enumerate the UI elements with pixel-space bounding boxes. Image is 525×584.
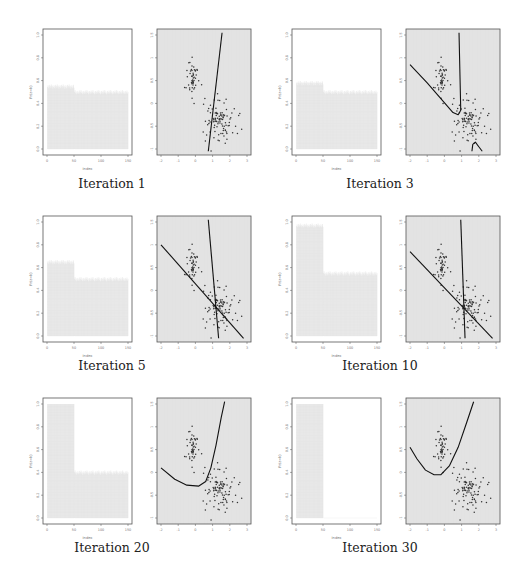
y-tick-label: 0.5	[399, 265, 403, 270]
y-tick-label: 0.4	[36, 288, 40, 293]
x-tick-label: 1	[461, 346, 463, 350]
probability-bars	[48, 260, 128, 336]
x-tick-label: 50	[321, 346, 325, 350]
iteration-caption: Iteration 1	[12, 176, 212, 191]
x-tick-label: 1	[461, 159, 463, 163]
x-tick-label: -1	[177, 159, 180, 163]
x-tick-label: 0	[194, 346, 196, 350]
y-tick-label: 1	[150, 57, 154, 59]
y-tick-label: 0.6	[285, 447, 289, 452]
probability-bars	[297, 224, 377, 336]
y-tick-label: 1.0	[285, 219, 289, 224]
y-tick-label: 0.2	[285, 310, 289, 315]
y-tick-label: 0.4	[285, 101, 289, 106]
y-axis-label: Pr(z=k)	[278, 272, 282, 286]
x-tick-label: 150	[125, 346, 131, 350]
iteration-caption: Iteration 5	[12, 358, 212, 373]
probability-plot: 0.00.20.40.60.81.0050100150IndexPr(z=k)	[276, 25, 389, 175]
y-tick-label: 0.0	[285, 333, 289, 338]
x-tick-label: 2	[229, 346, 231, 350]
x-tick-label: 50	[72, 346, 76, 350]
x-tick-label: -2	[408, 346, 411, 350]
y-tick-label: 1	[399, 244, 403, 246]
y-tick-label: 1.5	[150, 401, 154, 406]
x-tick-label: 2	[478, 159, 480, 163]
y-tick-label: 0	[399, 102, 403, 104]
x-tick-label: 100	[347, 528, 353, 532]
y-tick-label: -0.5	[150, 310, 154, 317]
probability-plot: 0.00.20.40.60.81.0050100150IndexPr(z=k)	[27, 394, 140, 544]
x-axis-label: Index	[83, 167, 94, 171]
y-tick-label: -1	[399, 147, 403, 150]
y-tick-label: 0	[150, 289, 154, 291]
y-tick-label: 1	[150, 426, 154, 428]
x-tick-label: 3	[246, 159, 248, 163]
x-tick-label: -2	[408, 159, 411, 163]
x-tick-label: 50	[321, 528, 325, 532]
y-tick-label: 0.4	[285, 470, 289, 475]
iteration-caption: Iteration 20	[12, 540, 212, 555]
x-tick-label: 1	[212, 159, 214, 163]
x-tick-label: 3	[246, 528, 248, 532]
y-tick-label: 0.8	[36, 424, 40, 429]
y-tick-label: 1.5	[399, 32, 403, 37]
x-tick-label: 0	[46, 528, 48, 532]
y-tick-label: 0.0	[285, 146, 289, 151]
probability-bars	[297, 404, 377, 518]
x-tick-label: 0	[46, 159, 48, 163]
probability-plot: 0.00.20.40.60.81.0050100150IndexPr(z=k)	[27, 212, 140, 362]
y-tick-label: 1.0	[285, 32, 289, 37]
x-tick-label: 2	[478, 528, 480, 532]
y-tick-label: 0.8	[285, 424, 289, 429]
y-tick-label: -1	[399, 334, 403, 337]
y-tick-label: 0.5	[399, 78, 403, 83]
probability-plot: 0.00.20.40.60.81.0050100150IndexPr(z=k)	[276, 212, 389, 362]
y-tick-label: 0.5	[150, 78, 154, 83]
y-tick-label: 1	[399, 426, 403, 428]
scatter-plot: -1-0.500.511.5-2-10123	[147, 212, 261, 358]
y-tick-label: 1.5	[150, 32, 154, 37]
x-tick-label: 0	[295, 346, 297, 350]
y-tick-label: -1	[150, 334, 154, 337]
x-tick-label: -2	[159, 159, 162, 163]
x-tick-label: 2	[478, 346, 480, 350]
y-tick-label: 0.8	[36, 242, 40, 247]
x-tick-label: -1	[177, 346, 180, 350]
y-axis-label: Pr(z=k)	[29, 272, 33, 286]
y-tick-label: -0.5	[399, 492, 403, 499]
x-tick-label: -1	[426, 528, 429, 532]
y-tick-label: 0.0	[36, 146, 40, 151]
y-tick-label: 0	[150, 102, 154, 104]
x-tick-label: -1	[177, 528, 180, 532]
y-tick-label: 0.8	[285, 55, 289, 60]
probability-plot: 0.00.20.40.60.81.0050100150IndexPr(z=k)	[27, 25, 140, 175]
probability-bars	[48, 404, 128, 518]
x-tick-label: 0	[194, 159, 196, 163]
x-tick-label: 0	[295, 528, 297, 532]
y-axis-label: Pr(z=k)	[29, 85, 33, 99]
x-tick-label: 3	[495, 346, 497, 350]
y-tick-label: 0.5	[150, 265, 154, 270]
x-tick-label: 2	[229, 528, 231, 532]
y-tick-label: -1	[150, 516, 154, 519]
y-tick-label: 0.4	[285, 288, 289, 293]
x-tick-label: 150	[125, 159, 131, 163]
y-tick-label: 0.6	[285, 78, 289, 83]
y-tick-label: 1.5	[399, 401, 403, 406]
y-tick-label: 1.5	[399, 219, 403, 224]
probability-plot: 0.00.20.40.60.81.0050100150IndexPr(z=k)	[276, 394, 389, 544]
y-tick-label: 1.0	[36, 219, 40, 224]
y-tick-label: 1.0	[36, 32, 40, 37]
y-tick-label: -0.5	[399, 310, 403, 317]
x-tick-label: -2	[159, 528, 162, 532]
y-tick-label: 1	[150, 244, 154, 246]
y-axis-label: Pr(z=k)	[278, 85, 282, 99]
scatter-background	[406, 398, 500, 524]
y-tick-label: -0.5	[150, 492, 154, 499]
scatter-plot: -1-0.500.511.5-2-10123	[147, 25, 261, 171]
x-tick-label: 50	[72, 159, 76, 163]
y-tick-label: 0.5	[150, 447, 154, 452]
y-tick-label: 0.0	[36, 515, 40, 520]
x-tick-label: 100	[98, 346, 104, 350]
y-tick-label: 0.8	[36, 55, 40, 60]
